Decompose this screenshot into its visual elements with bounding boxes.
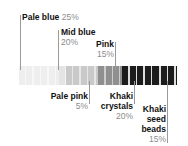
callout-label-khaki-crystals-line2: crystals xyxy=(101,101,133,111)
callout-percent-khaki-seed-beads: 15% xyxy=(141,134,166,144)
callout-percent-pale-blue: 25% xyxy=(62,12,79,22)
bar-segment-pale-blue xyxy=(19,66,59,85)
bar-segment-khaki-seed-beads xyxy=(153,66,177,85)
bar-segment-pink xyxy=(98,66,122,85)
callout-label-khaki-crystals-line1: Khaki xyxy=(101,91,133,101)
bar-segment-khaki-crystals xyxy=(122,66,154,85)
callout-percent-pale-pink: 5% xyxy=(51,101,88,111)
leader-line-khaki-crystals xyxy=(134,81,135,104)
callout-mid-blue: Mid blue 20% xyxy=(61,27,95,47)
leader-line-mid-blue xyxy=(58,30,59,70)
leader-line-pale-blue xyxy=(20,15,21,70)
callout-pale-pink: Pale pink 5% xyxy=(51,91,88,111)
callout-percent-pink: 15% xyxy=(96,49,114,59)
stacked-bar xyxy=(19,66,177,85)
callout-khaki-crystals: Khaki crystals 20% xyxy=(101,91,133,121)
callout-label-khaki-seed-beads-line1: Khaki xyxy=(141,104,166,114)
callout-label-khaki-seed-beads-line2: seed xyxy=(141,114,166,124)
bar-segment-pale-pink xyxy=(59,66,67,85)
leader-line-pale-pink xyxy=(89,81,90,104)
callout-percent-mid-blue: 20% xyxy=(61,37,95,47)
stacked-bar-chart-figure: Pale blue 25% Mid blue 20% Pink 15% Pale… xyxy=(0,0,188,146)
leader-line-pink xyxy=(115,42,116,70)
callout-khaki-seed-beads: Khaki seed beads 15% xyxy=(141,104,166,144)
leader-line-khaki-seed-beads xyxy=(167,81,168,143)
callout-percent-khaki-crystals: 20% xyxy=(101,111,133,121)
callout-label-khaki-seed-beads-line3: beads xyxy=(141,124,166,134)
callout-label-pale-blue: Pale blue xyxy=(22,12,59,22)
callout-label-mid-blue: Mid blue xyxy=(61,27,95,37)
callout-pale-blue: Pale blue 25% xyxy=(22,12,79,22)
callout-label-pale-pink: Pale pink xyxy=(51,91,88,101)
callout-label-pink: Pink xyxy=(96,39,114,49)
bar-segment-mid-blue xyxy=(66,66,98,85)
callout-pink: Pink 15% xyxy=(96,39,114,59)
